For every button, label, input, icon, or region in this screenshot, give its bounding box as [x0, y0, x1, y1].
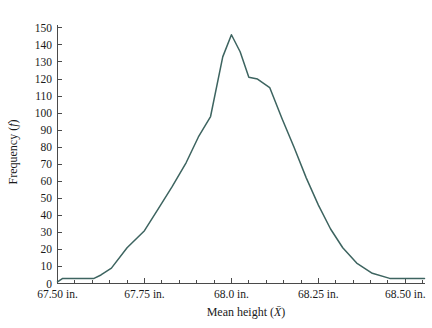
y-tick-label: 130: [35, 56, 53, 68]
x-tick-label: 68.50 in.: [385, 288, 426, 300]
x-tick-label: 67.75 in.: [124, 288, 165, 300]
y-axis-title-close-paren: ): [6, 120, 20, 124]
y-tick-label: 10: [41, 260, 53, 272]
y-tick-label: 60: [41, 175, 53, 187]
x-tick-label: 67.50 in.: [37, 288, 78, 300]
y-tick-label: 100: [35, 107, 53, 119]
y-tick-label: 150: [35, 22, 53, 34]
svg-text:Frequency (f): Frequency (f): [6, 120, 20, 185]
chart-canvas: 0102030405060708090100110120130140150 67…: [0, 0, 432, 328]
y-tick-label: 40: [41, 209, 53, 221]
y-tick-label: 80: [41, 141, 53, 153]
y-axis-title: Frequency (f): [6, 120, 20, 185]
y-tick-label: 50: [41, 192, 53, 204]
x-axis-title-close-paren: ): [281, 305, 285, 319]
y-tick-label: 30: [41, 226, 53, 238]
y-tick-label: 90: [41, 124, 53, 136]
x-axis-title-text: Mean height (: [207, 305, 274, 319]
y-tick-label: 140: [35, 39, 53, 51]
x-tick-label: 68.0 in.: [214, 288, 249, 300]
x-tick-label: 68.25 in.: [298, 288, 339, 300]
y-axis-title-text: Frequency (: [6, 127, 20, 185]
y-tick-label: 110: [35, 90, 52, 102]
y-tick-label: 120: [35, 73, 53, 85]
svg-text:Mean height (X̄): Mean height (X̄): [207, 305, 286, 319]
frequency-polygon-figure: 0102030405060708090100110120130140150 67…: [0, 0, 432, 328]
x-axis-title: Mean height (X̄): [207, 305, 286, 319]
y-tick-label: 70: [41, 158, 53, 170]
y-tick-label: 20: [41, 243, 53, 255]
